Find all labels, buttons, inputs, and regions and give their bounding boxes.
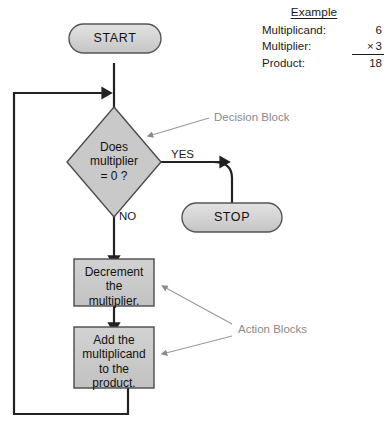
callout-leader-action-block-bottom: [166, 336, 232, 353]
example-panel: Example Multiplicand:6Multiplier:×3Produ…: [262, 4, 384, 72]
edge-label-no: NO: [119, 210, 136, 222]
example-row-label: Multiplier:: [262, 38, 311, 54]
multiplication-sign: ×: [367, 40, 374, 52]
example-row-label: Multiplicand:: [262, 22, 326, 38]
example-row: Product:18: [262, 55, 384, 71]
node-stop: [182, 203, 282, 232]
callout-leader-decision-block: [152, 118, 209, 135]
example-title: Example: [262, 4, 384, 21]
node-decision: [67, 107, 161, 217]
callout-action-blocks: Action Blocks: [238, 323, 307, 335]
example-row: Multiplicand:6: [262, 22, 384, 38]
example-row-value: 6: [352, 22, 384, 38]
callout-leader-action-block-top: [166, 288, 232, 324]
node-decrement: [74, 259, 154, 306]
edge-label-yes: YES: [171, 148, 194, 160]
callout-decision-block: Decision Block: [214, 111, 289, 123]
example-row-value: ×3: [352, 38, 384, 55]
node-add: [74, 327, 154, 388]
example-row: Multiplier:×3: [262, 38, 384, 55]
flowchart-canvas: START Does multiplier = 0 ? STOP Decreme…: [0, 0, 387, 447]
example-rows: Multiplicand:6Multiplier:×3Product:18: [262, 22, 384, 72]
example-row-label: Product:: [262, 55, 305, 71]
example-row-value: 18: [352, 55, 384, 71]
edge-yes-to-stop: [213, 162, 232, 203]
node-start: [69, 24, 161, 53]
